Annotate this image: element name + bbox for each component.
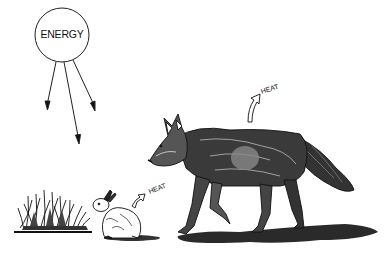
coyote-icon xyxy=(148,114,354,234)
rabbit-icon xyxy=(93,190,160,241)
energy-arrows xyxy=(45,60,95,144)
coyote-shadow xyxy=(178,224,378,243)
grass-icon xyxy=(14,190,92,232)
coyote-heat-arrow-icon xyxy=(248,94,260,122)
rabbit-heat-arrow-icon xyxy=(132,194,145,208)
energy-label: ENERGY xyxy=(36,28,88,40)
energy-flow-diagram: ENERGY HEAT HEAT xyxy=(0,0,392,256)
